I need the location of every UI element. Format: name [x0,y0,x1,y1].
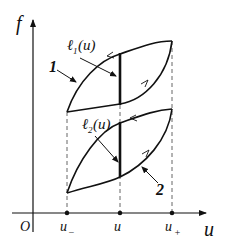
segment-2-arg: (u) [93,116,111,133]
origin-label: O [20,219,30,234]
tick-label-u-minus-sub: − [68,227,75,238]
x-axis-label: u [204,218,214,240]
loop-2-label: 2 [155,181,164,198]
segment-1-sub: 1 [73,46,78,56]
tick-point-u-minus [65,211,70,216]
loop-1-label: 1 [49,58,57,75]
loop-1-lower-direction-arrow [141,80,148,87]
hysteresis-diagram: f u O u − u u + 1 2 ℓ 1 (u) ℓ 2 (u) [0,0,227,244]
tick-label-u-plus: u [165,219,172,234]
tick-point-u [118,211,123,216]
tick-label-u-plus-sub: + [174,227,181,238]
pointer-arrow-loop-1 [57,70,76,82]
pointer-arrow-l1 [80,58,116,76]
tick-label-u-minus: u [60,219,67,234]
tick-label-u: u [114,219,121,234]
pointer-arrow-l2 [95,136,118,162]
segment-1-arg: (u) [78,37,96,54]
tick-point-u-plus [170,211,175,216]
y-axis-label: f [16,12,24,35]
